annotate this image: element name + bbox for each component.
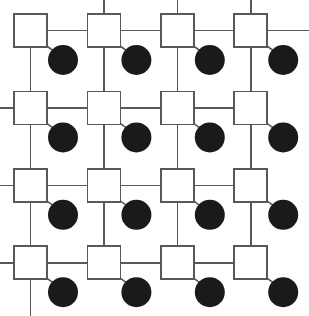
square-node[interactable] bbox=[234, 169, 267, 202]
circle-node[interactable] bbox=[268, 277, 298, 307]
square-node[interactable] bbox=[87, 14, 120, 47]
circle-node[interactable] bbox=[268, 45, 298, 75]
circle-node[interactable] bbox=[195, 200, 225, 230]
square-node[interactable] bbox=[14, 14, 47, 47]
circle-node[interactable] bbox=[268, 122, 298, 152]
circle-node[interactable] bbox=[195, 45, 225, 75]
square-node[interactable] bbox=[161, 14, 194, 47]
lattice-diagram bbox=[0, 0, 309, 316]
square-node[interactable] bbox=[234, 14, 267, 47]
circle-node[interactable] bbox=[48, 277, 78, 307]
horizontal-edge-group bbox=[0, 31, 309, 263]
square-node[interactable] bbox=[234, 246, 267, 279]
circle-node[interactable] bbox=[195, 122, 225, 152]
circle-node[interactable] bbox=[195, 277, 225, 307]
circle-node[interactable] bbox=[121, 277, 151, 307]
diagram-canvas bbox=[0, 0, 309, 316]
square-node[interactable] bbox=[161, 169, 194, 202]
square-node[interactable] bbox=[87, 169, 120, 202]
circle-node[interactable] bbox=[121, 122, 151, 152]
square-node[interactable] bbox=[87, 246, 120, 279]
circle-node[interactable] bbox=[121, 200, 151, 230]
square-node[interactable] bbox=[14, 169, 47, 202]
circle-node[interactable] bbox=[121, 45, 151, 75]
circle-node[interactable] bbox=[48, 122, 78, 152]
square-node[interactable] bbox=[161, 246, 194, 279]
square-node[interactable] bbox=[87, 91, 120, 124]
circle-node[interactable] bbox=[48, 200, 78, 230]
square-node[interactable] bbox=[161, 91, 194, 124]
circle-node[interactable] bbox=[48, 45, 78, 75]
square-node[interactable] bbox=[14, 246, 47, 279]
square-node[interactable] bbox=[234, 91, 267, 124]
square-node[interactable] bbox=[14, 91, 47, 124]
circle-node[interactable] bbox=[268, 200, 298, 230]
